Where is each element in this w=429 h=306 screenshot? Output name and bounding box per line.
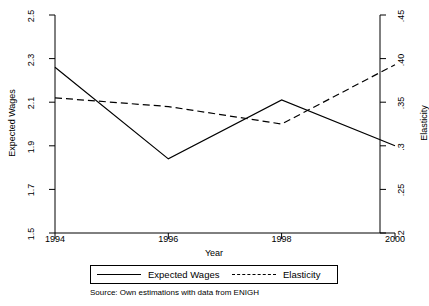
x-axis-title: Year: [0, 248, 428, 258]
y-tick-label-left-4: 2.3: [26, 47, 36, 73]
chart-legend: Expected Wages Elasticity: [90, 265, 338, 284]
y-tick-label-left-1: 1.7: [26, 177, 36, 203]
series-line-elasticity: [55, 65, 395, 124]
x-tick-label-1996: 1996: [148, 234, 188, 244]
y-tick-label-right-5: .45: [396, 3, 406, 29]
source-note: Source: Own estimations with data from E…: [90, 288, 259, 297]
y-tick-label-left-5: 2.5: [26, 3, 36, 29]
y-tick-label-right-2: .3: [396, 134, 406, 160]
y-tick-label-left-2: 1.9: [26, 134, 36, 160]
y-tick-label-right-4: .40: [396, 47, 406, 73]
left-axis-ticks: [49, 15, 55, 233]
legend-swatch-dashed-line-icon: [232, 270, 276, 280]
legend-item-elasticity: Elasticity: [232, 266, 320, 283]
legend-swatch-solid-line-icon: [97, 270, 141, 280]
y-axis-title-left: Expected Wages: [7, 78, 17, 168]
y-tick-label-right-1: .25: [396, 177, 406, 203]
x-tick-label-1994: 1994: [35, 234, 75, 244]
x-tick-label-2000: 2000: [375, 234, 415, 244]
x-tick-label-1998: 1998: [262, 234, 302, 244]
y-tick-label-right-3: .35: [396, 90, 406, 116]
legend-item-expected-wages: Expected Wages: [97, 266, 219, 283]
legend-label-elasticity: Elasticity: [283, 269, 320, 280]
right-axis-ticks: [380, 15, 386, 233]
y-tick-label-left-3: 2.1: [26, 90, 36, 116]
x-axis-ticks: [55, 233, 395, 239]
legend-label-expected-wages: Expected Wages: [148, 269, 219, 280]
y-axis-title-right: Elasticity: [419, 78, 429, 168]
series-line-expected-wages: [55, 67, 395, 159]
